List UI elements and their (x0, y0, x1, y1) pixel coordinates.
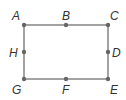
point-d (106, 50, 110, 54)
point-e (106, 77, 110, 81)
rectangle-outline (24, 25, 108, 79)
point-c (106, 23, 110, 27)
label-e: E (110, 83, 119, 97)
label-d: D (112, 46, 121, 60)
label-c: C (110, 9, 119, 23)
point-f (64, 77, 68, 81)
point-a (22, 23, 26, 27)
point-g (22, 77, 26, 81)
point-h (22, 50, 26, 54)
point-b (64, 23, 68, 27)
label-h: H (9, 46, 18, 60)
rectangle-diagram: A B C D E F G H (0, 0, 126, 100)
label-a: A (11, 9, 20, 23)
label-b: B (62, 9, 70, 23)
label-f: F (62, 83, 70, 97)
label-g: G (12, 83, 21, 97)
